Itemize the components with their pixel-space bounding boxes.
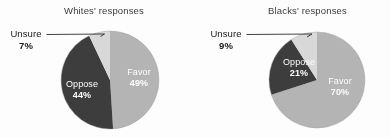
slice-label-oppose-whites-name: Oppose <box>58 79 106 90</box>
slice-label-unsure-whites-name: Unsure <box>4 28 48 40</box>
slice-label-favor-blacks-pct: 70% <box>318 87 362 98</box>
pie-chart-whites <box>0 0 196 138</box>
slice-label-favor-blacks-name: Favor <box>318 76 362 87</box>
slice-label-favor-blacks: Favor 70% <box>318 76 362 97</box>
slice-label-unsure-whites-pct: 7% <box>4 40 48 52</box>
slice-label-favor-whites: Favor 49% <box>117 67 161 88</box>
slice-label-oppose-blacks-pct: 21% <box>275 68 323 79</box>
slice-label-unsure-blacks-name: Unsure <box>204 28 248 40</box>
slice-label-unsure-blacks-pct: 9% <box>204 40 248 52</box>
slice-label-oppose-whites: Oppose 44% <box>58 79 106 100</box>
chart-panel-blacks: Blacks' responses Favor 70% Oppose 21% U… <box>196 0 391 138</box>
slice-label-unsure-blacks: Unsure 9% <box>204 28 248 51</box>
slice-label-oppose-blacks: Oppose 21% <box>275 57 323 78</box>
slice-label-favor-whites-pct: 49% <box>117 78 161 89</box>
slice-label-favor-whites-name: Favor <box>117 67 161 78</box>
slice-label-oppose-blacks-name: Oppose <box>275 57 323 68</box>
slice-label-unsure-whites: Unsure 7% <box>4 28 48 51</box>
pie-chart-figure: Whites' responses Favor 49% Oppose 44% <box>0 0 391 138</box>
chart-panel-whites: Whites' responses Favor 49% Oppose 44% <box>0 0 196 138</box>
slice-label-oppose-whites-pct: 44% <box>58 90 106 101</box>
